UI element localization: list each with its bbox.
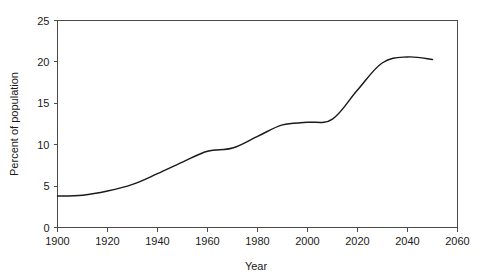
y-tick-label: 0 (43, 222, 49, 234)
x-axis-ticks: 190019201940196019802000202020402060 (45, 228, 469, 247)
x-tick-label: 2020 (345, 235, 369, 247)
y-tick-label: 25 (37, 15, 49, 27)
y-tick-label: 10 (37, 139, 49, 151)
plot-frame (58, 21, 458, 228)
x-tick-label: 1940 (145, 235, 169, 247)
y-tick-label: 5 (43, 180, 49, 192)
x-tick-label: 1920 (95, 235, 119, 247)
y-axis-title: Percent of population (8, 72, 20, 176)
x-tick-label: 2060 (445, 235, 469, 247)
y-axis-ticks: 0510152025 (37, 15, 57, 234)
y-tick-label: 20 (37, 56, 49, 68)
x-tick-label: 1960 (195, 235, 219, 247)
data-series-line (58, 57, 433, 196)
x-tick-label: 1980 (245, 235, 269, 247)
chart-container: 0510152025 19001920194019601980200020202… (0, 0, 489, 279)
y-tick-label: 15 (37, 97, 49, 109)
x-axis-title: Year (245, 260, 268, 272)
x-tick-label: 2000 (295, 235, 319, 247)
plot-frame-path (58, 21, 458, 228)
x-tick-label: 2040 (395, 235, 419, 247)
x-tick-label: 1900 (45, 235, 69, 247)
line-chart: 0510152025 19001920194019601980200020202… (0, 0, 489, 279)
